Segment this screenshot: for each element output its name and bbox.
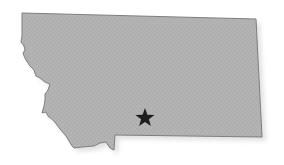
montana-map <box>0 0 284 165</box>
map-container: Montana <box>0 0 284 165</box>
state-outline-montana <box>21 13 262 150</box>
